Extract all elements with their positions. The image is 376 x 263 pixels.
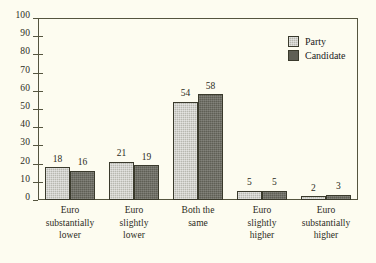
bar-column[interactable]: 58: [198, 18, 223, 200]
bar-column[interactable]: 5: [237, 18, 262, 200]
y-axis-tick-label: 60: [20, 84, 30, 94]
bar-party[interactable]: [45, 167, 70, 200]
bar-party[interactable]: [109, 162, 134, 200]
y-axis-tick-mark: [33, 200, 38, 201]
y-axis-tick-label: 90: [20, 29, 30, 39]
bar-party[interactable]: [301, 196, 326, 200]
bar-group: 1816: [38, 18, 102, 200]
y-axis-tick-label: 0: [25, 193, 30, 203]
y-axis-tick-label: 80: [20, 47, 30, 57]
y-axis-tick-label: 100: [15, 11, 30, 21]
x-axis-label-line: Euro: [102, 204, 166, 217]
bar-value-label: 18: [53, 155, 63, 165]
bar-value-label: 3: [336, 182, 341, 192]
bar-value-label: 58: [206, 82, 216, 92]
bar-column[interactable]: 21: [109, 18, 134, 200]
bar-candidate[interactable]: [134, 165, 159, 200]
x-axis-label: Eurosubstantiallylower: [38, 204, 102, 242]
bar-value-label: 5: [272, 178, 277, 188]
y-axis-tick-label: 30: [20, 138, 30, 148]
bar-group: 2119: [102, 18, 166, 200]
x-axis-label-line: slightly: [102, 217, 166, 230]
bar-group: 5458: [166, 18, 230, 200]
legend-item-party[interactable]: Party: [288, 36, 346, 47]
legend-label: Candidate: [305, 51, 346, 61]
y-axis-tick-label: 20: [20, 157, 30, 167]
y-axis-tick-label: 10: [20, 175, 30, 185]
bar-candidate[interactable]: [70, 171, 95, 200]
legend-label: Party: [305, 37, 326, 47]
legend-swatch-party: [288, 36, 299, 47]
y-axis-tick-label: 40: [20, 120, 30, 130]
bar-party[interactable]: [173, 102, 198, 200]
bar-column[interactable]: 54: [173, 18, 198, 200]
bar-candidate[interactable]: [262, 191, 287, 200]
bar-column[interactable]: 19: [134, 18, 159, 200]
bar-value-label: 2: [311, 184, 316, 194]
y-axis-tick-label: 70: [20, 66, 30, 76]
x-axis-label-line: substantially: [38, 217, 102, 230]
bar-column[interactable]: 5: [262, 18, 287, 200]
x-axis-label-line: Euro: [230, 204, 294, 217]
bar-column[interactable]: 16: [70, 18, 95, 200]
bar-chart: 0102030405060708090100 1816211954585523 …: [0, 0, 376, 263]
y-axis-tick-label: 50: [20, 102, 30, 112]
x-axis-label-line: Euro: [294, 204, 358, 217]
x-axis-label-line: slightly: [230, 217, 294, 230]
bar-value-label: 54: [181, 89, 191, 99]
x-axis-label-line: lower: [38, 229, 102, 242]
bar-value-label: 16: [78, 158, 88, 168]
bar-value-label: 21: [117, 149, 127, 159]
legend-swatch-candidate: [288, 50, 299, 61]
x-axis-label: Euroslightlylower: [102, 204, 166, 242]
chart-legend: PartyCandidate: [288, 36, 346, 61]
legend-item-candidate[interactable]: Candidate: [288, 50, 346, 61]
x-axis-label-line: substantially: [294, 217, 358, 230]
x-axis-label: Euroslightlyhigher: [230, 204, 294, 242]
x-axis-label-line: Both the: [166, 204, 230, 217]
x-axis-label: Eurosubstantiallyhigher: [294, 204, 358, 242]
x-axis-label-line: higher: [230, 229, 294, 242]
bar-value-label: 5: [247, 178, 252, 188]
x-axis-label-line: higher: [294, 229, 358, 242]
bar-party[interactable]: [237, 191, 262, 200]
x-axis-label: Both thesame: [166, 204, 230, 242]
y-axis: 0102030405060708090100: [0, 18, 38, 200]
bar-column[interactable]: 18: [45, 18, 70, 200]
x-axis-labels: EurosubstantiallylowerEuroslightlylowerB…: [38, 204, 358, 242]
x-axis-label-line: same: [166, 217, 230, 230]
x-axis-label-line: Euro: [38, 204, 102, 217]
bar-candidate[interactable]: [198, 94, 223, 200]
x-axis-label-line: lower: [102, 229, 166, 242]
bar-group: 55: [230, 18, 294, 200]
bar-candidate[interactable]: [326, 195, 351, 200]
bar-value-label: 19: [142, 153, 152, 163]
